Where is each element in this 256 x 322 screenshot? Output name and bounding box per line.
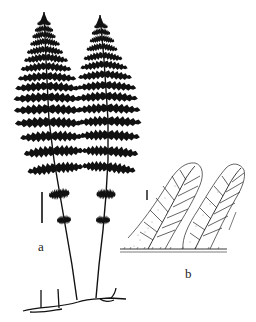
panel-a	[13, 12, 142, 312]
panel-label-a: a	[38, 240, 44, 253]
pinnule-segment-2	[183, 164, 245, 249]
pinnule-segment-1	[128, 163, 202, 249]
panel-b	[120, 163, 245, 252]
frond-left	[13, 12, 83, 300]
panel-label-b: b	[185, 267, 192, 280]
rhizome	[23, 288, 126, 312]
fern-illustration	[0, 0, 256, 322]
frond-right	[75, 15, 142, 298]
